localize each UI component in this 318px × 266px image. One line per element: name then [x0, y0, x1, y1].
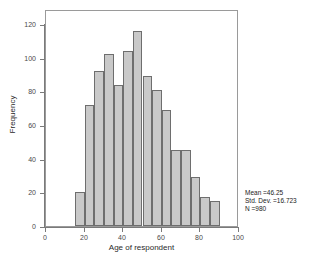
x-axis-line	[45, 227, 238, 228]
x-axis-tick-label: 0	[33, 234, 57, 241]
x-axis-tick-label: 80	[187, 234, 211, 241]
stat-std-dev: Std. Dev. =16.723	[245, 197, 297, 205]
y-axis-tick-label: 80	[0, 88, 36, 95]
bar-series	[46, 11, 237, 226]
histogram-bar	[143, 76, 153, 226]
histogram-bar	[85, 105, 95, 226]
x-axis-tick-label: 100	[226, 234, 250, 241]
x-axis-tick	[238, 227, 239, 232]
histogram-bar	[162, 110, 172, 226]
histogram-bar	[191, 177, 201, 226]
x-axis-tick-label: 40	[110, 234, 134, 241]
histogram-bar	[123, 51, 133, 226]
x-axis-title: Age of respondent	[45, 243, 238, 252]
x-axis-tick	[161, 227, 162, 232]
y-axis-tick-label: 60	[0, 122, 36, 129]
y-axis-tick-label: 120	[0, 21, 36, 28]
x-axis-tick	[199, 227, 200, 232]
y-axis-tick-label: 100	[0, 55, 36, 62]
x-axis-tick-label: 60	[149, 234, 173, 241]
stat-mean: Mean =46.25	[245, 189, 297, 197]
histogram-bar	[171, 150, 181, 226]
histogram-bar	[104, 54, 114, 226]
histogram-bar	[200, 197, 210, 226]
y-axis-tick-label: 0	[0, 223, 36, 230]
y-axis-tick-label: 40	[0, 156, 36, 163]
histogram-bar	[181, 150, 191, 226]
x-axis-tick-label: 20	[72, 234, 96, 241]
histogram-bar	[152, 90, 162, 226]
statistics-annotation: Mean =46.25 Std. Dev. =16.723 N =980	[245, 189, 297, 213]
x-axis-tick	[84, 227, 85, 232]
histogram-bar	[210, 201, 220, 226]
y-axis-title: Frequency	[8, 70, 17, 160]
histogram-bar	[75, 192, 85, 226]
stat-n: N =980	[245, 205, 297, 213]
histogram-bar	[94, 71, 104, 226]
x-axis-tick	[122, 227, 123, 232]
x-axis-tick	[45, 227, 46, 232]
histogram-bar	[114, 85, 124, 226]
histogram-figure: 020406080100120 020406080100 Frequency A…	[0, 0, 318, 266]
plot-area	[45, 10, 238, 227]
y-axis-tick-label: 20	[0, 189, 36, 196]
histogram-bar	[133, 31, 143, 226]
